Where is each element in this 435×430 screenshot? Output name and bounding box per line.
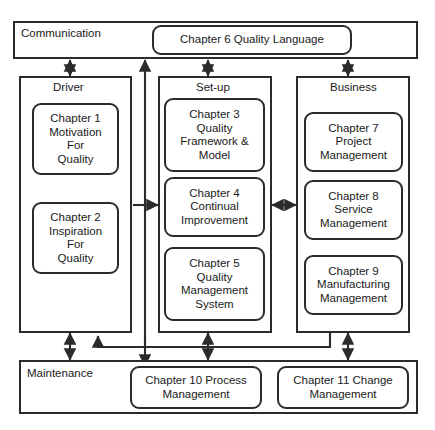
node-chapter2-line-3: For: [67, 238, 84, 252]
node-chapter5-line-2: Quality: [197, 271, 233, 285]
node-chapter5-line-1: Chapter 5: [189, 257, 240, 271]
node-chapter6-line-1: Chapter 6 Quality Language: [180, 33, 324, 47]
node-chapter3-line-1: Chapter 3: [189, 108, 240, 122]
node-chapter4[interactable]: Chapter 4 Continual Improvement: [164, 177, 265, 237]
node-chapter8-line-3: Management: [320, 217, 387, 231]
node-chapter2-line-4: Quality: [58, 252, 94, 266]
node-chapter5-line-4: System: [195, 298, 233, 312]
node-chapter9-line-1: Chapter 9: [328, 265, 379, 279]
group-label-driver: Driver: [53, 81, 84, 94]
node-chapter1-line-2: Motivation: [49, 126, 101, 140]
node-chapter8-line-2: Service: [334, 203, 372, 217]
node-chapter11-line-2: Management: [309, 388, 376, 402]
node-chapter9[interactable]: Chapter 9 Manufacturing Management: [304, 255, 403, 315]
node-chapter10-line-2: Management: [162, 388, 229, 402]
node-chapter4-line-1: Chapter 4: [189, 187, 240, 201]
node-chapter3[interactable]: Chapter 3 Quality Framework & Model: [164, 98, 265, 172]
node-chapter1-line-1: Chapter 1: [50, 112, 101, 126]
node-chapter4-line-2: Continual: [190, 200, 239, 214]
node-chapter1-line-3: For: [67, 139, 84, 153]
node-chapter9-line-3: Management: [320, 292, 387, 306]
node-chapter11[interactable]: Chapter 11 Change Management: [277, 366, 409, 409]
node-chapter10[interactable]: Chapter 10 Process Management: [130, 366, 262, 409]
node-chapter5-line-3: Management: [181, 284, 248, 298]
node-chapter2-line-2: Inspiration: [49, 225, 102, 239]
node-chapter7-line-3: Management: [320, 149, 387, 163]
group-label-setup: Set-up: [196, 81, 230, 94]
node-chapter1-line-4: Quality: [58, 153, 94, 167]
group-label-maintenance: Maintenance: [27, 367, 93, 380]
node-chapter8[interactable]: Chapter 8 Service Management: [304, 180, 403, 240]
node-chapter3-line-3: Framework &: [180, 135, 248, 149]
node-chapter3-line-2: Quality: [197, 122, 233, 136]
node-chapter5[interactable]: Chapter 5 Quality Management System: [164, 247, 265, 321]
diagram-canvas: Communication Chapter 6 Quality Language…: [0, 0, 435, 430]
node-chapter10-line-1: Chapter 10 Process: [145, 374, 247, 388]
node-chapter11-line-1: Chapter 11 Change: [293, 374, 393, 388]
node-chapter1[interactable]: Chapter 1 Motivation For Quality: [32, 103, 119, 175]
connector-business-driver-return: [98, 333, 330, 347]
node-chapter4-line-3: Improvement: [181, 214, 248, 228]
node-chapter9-line-2: Manufacturing: [317, 278, 390, 292]
node-chapter7[interactable]: Chapter 7 Project Management: [304, 112, 403, 172]
node-chapter7-line-2: Project: [336, 135, 372, 149]
group-label-business: Business: [330, 81, 377, 94]
node-chapter6[interactable]: Chapter 6 Quality Language: [152, 25, 352, 55]
group-label-communication: Communication: [21, 27, 101, 40]
node-chapter2-line-1: Chapter 2: [50, 211, 101, 225]
node-chapter2[interactable]: Chapter 2 Inspiration For Quality: [32, 202, 119, 274]
node-chapter8-line-1: Chapter 8: [328, 190, 379, 204]
node-chapter3-line-4: Model: [199, 149, 230, 163]
node-chapter7-line-1: Chapter 7: [328, 122, 379, 136]
